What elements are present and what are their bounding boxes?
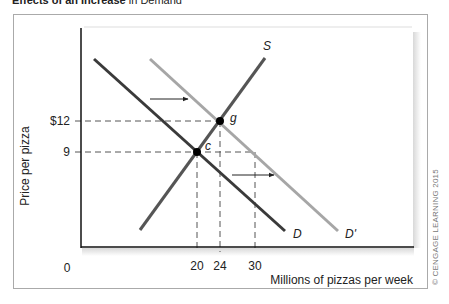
demand-label: D	[293, 227, 302, 241]
copyright-notice: © CENGAGE LEARNING 2015	[431, 169, 440, 285]
x-axis-label: Millions of pizzas per week	[270, 273, 414, 287]
ytick-9: 9	[63, 145, 70, 159]
point-g	[216, 117, 224, 125]
panel-shadow-right	[413, 32, 421, 248]
xtick-30: 30	[248, 259, 262, 273]
chart-plot: $12 9 0 20 24 30 Millions of pizzas per …	[0, 0, 449, 304]
y-axis-label: Price per pizza	[18, 126, 32, 206]
origin-label: 0	[64, 261, 71, 275]
xtick-20: 20	[190, 259, 204, 273]
panel-shadow-bottom	[82, 248, 414, 256]
supply-curve	[140, 58, 265, 230]
point-g-label: g	[230, 111, 237, 125]
xtick-24: 24	[213, 259, 227, 273]
supply-label: S	[263, 39, 271, 53]
dashed-guides	[75, 121, 255, 252]
demand-curve	[94, 59, 285, 231]
point-c-label: c	[205, 139, 211, 153]
demand-new-label: D'	[345, 227, 357, 241]
ytick-12: $12	[50, 114, 70, 128]
point-c	[193, 148, 201, 156]
